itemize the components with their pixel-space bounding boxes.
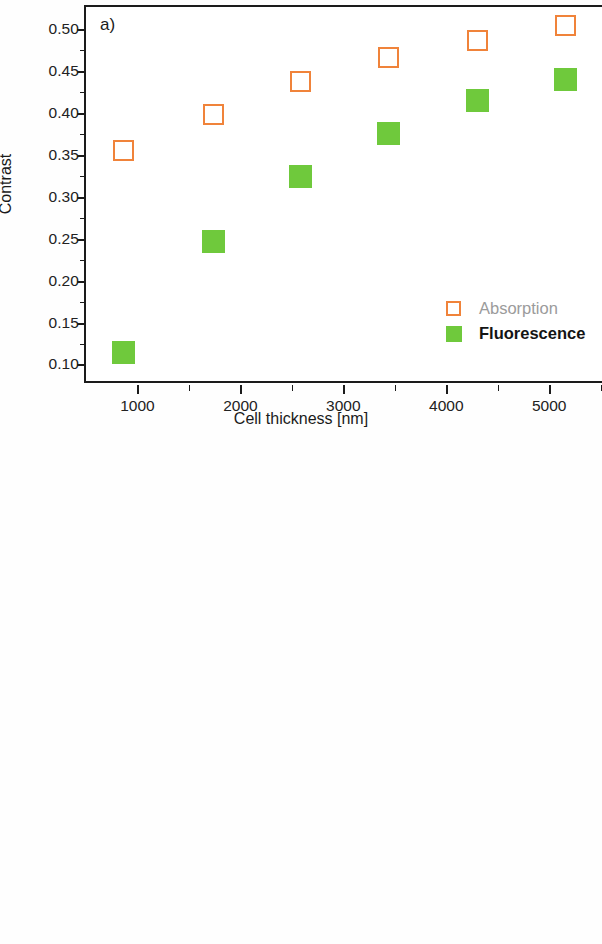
y-tick-label: 0.45 <box>48 62 79 80</box>
x-tick-mark <box>343 385 345 394</box>
legend-label-absorption: Absorption <box>479 299 558 318</box>
y-tick-label: 0.10 <box>48 355 79 373</box>
data-point-absorption <box>290 71 311 92</box>
x-tick-mark <box>240 385 242 394</box>
y-minor-tick-mark <box>80 134 86 135</box>
x-minor-tick-mark <box>395 385 396 391</box>
x-tick-mark <box>549 385 551 394</box>
data-point-fluorescence <box>112 341 135 364</box>
y-tick-label: 0.40 <box>48 104 79 122</box>
x-tick-mark <box>446 385 448 394</box>
legend-row-fluorescence: Fluorescence <box>441 321 585 346</box>
data-point-absorption <box>467 30 488 51</box>
panel-b: b) Absorption Fluorescence 1020304010002… <box>0 500 602 944</box>
legend-row-absorption: Absorption <box>441 296 585 321</box>
legend-a: Absorption Fluorescence <box>441 296 585 346</box>
x-tick-mark <box>137 385 139 394</box>
y-axis-title-a: Contrast <box>0 154 15 214</box>
x-axis-title-a: Cell thickness [nm] <box>0 410 602 428</box>
data-point-fluorescence <box>202 230 225 253</box>
data-point-absorption <box>555 15 576 36</box>
filled-square-icon <box>441 326 466 342</box>
data-point-fluorescence <box>377 122 400 145</box>
y-tick-label: 0.25 <box>48 230 79 248</box>
plot-area-a: a) Absorption Fluorescence 0.100.150.200… <box>84 5 602 383</box>
x-minor-tick-mark <box>498 385 499 391</box>
legend-label-fluorescence: Fluorescence <box>479 324 585 343</box>
y-tick-label: 0.50 <box>48 20 79 38</box>
y-minor-tick-mark <box>80 302 86 303</box>
x-minor-tick-mark <box>292 385 293 391</box>
data-point-absorption <box>113 140 134 161</box>
data-point-fluorescence <box>554 68 577 91</box>
data-point-fluorescence <box>466 89 489 112</box>
y-tick-label: 0.15 <box>48 314 79 332</box>
panel-a: a) Absorption Fluorescence 0.100.150.200… <box>0 0 602 472</box>
y-minor-tick-mark <box>80 50 86 51</box>
data-point-fluorescence <box>289 165 312 188</box>
y-tick-label: 0.35 <box>48 146 79 164</box>
y-tick-label: 0.20 <box>48 272 79 290</box>
panel-label-a: a) <box>100 15 115 35</box>
y-minor-tick-mark <box>80 176 86 177</box>
open-square-icon <box>441 301 466 316</box>
y-tick-label: 0.30 <box>48 188 79 206</box>
data-point-absorption <box>378 47 399 68</box>
y-minor-tick-mark <box>80 260 86 261</box>
data-point-absorption <box>203 104 224 125</box>
y-minor-tick-mark <box>80 92 86 93</box>
x-minor-tick-mark <box>189 385 190 391</box>
figure-root: a) Absorption Fluorescence 0.100.150.200… <box>0 0 602 944</box>
y-minor-tick-mark <box>80 344 86 345</box>
y-minor-tick-mark <box>80 218 86 219</box>
